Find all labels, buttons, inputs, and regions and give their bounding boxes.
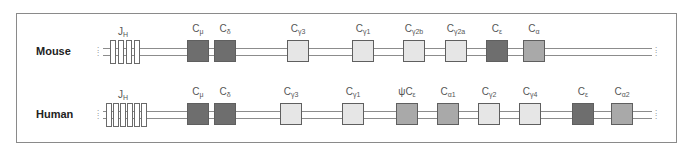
jh-segment — [127, 103, 133, 127]
jh-segment — [141, 103, 147, 127]
human-locus-row: Human :: :: JH CμCδCγ3Cγ1ψCεCα1Cγ2Cγ4CεC… — [0, 0, 693, 149]
gene-box — [572, 103, 594, 125]
gene-label: Cα2 — [614, 86, 629, 98]
gene-box — [519, 103, 541, 125]
gene-label: Cγ3 — [284, 86, 299, 98]
dna-strand-bottom — [103, 118, 652, 119]
jh-segment — [134, 103, 140, 127]
dna-strand-top — [103, 111, 652, 112]
right-continuation-dots: :: — [655, 109, 657, 119]
gene-box — [478, 103, 500, 125]
gene-box — [342, 103, 364, 125]
jh-label: JH — [118, 89, 128, 101]
gene-box — [611, 103, 633, 125]
gene-box — [280, 103, 302, 125]
gene-label: Cα1 — [440, 86, 455, 98]
jh-segment — [106, 103, 112, 127]
gene-box — [214, 103, 236, 125]
gene-box — [187, 103, 209, 125]
gene-label: Cδ — [219, 86, 230, 98]
species-label-human: Human — [36, 108, 73, 120]
jh-segment — [120, 103, 126, 127]
jh-segment — [113, 103, 119, 127]
left-continuation-dots: :: — [97, 109, 99, 119]
gene-label: Cε — [578, 86, 588, 98]
gene-label: Cγ1 — [346, 86, 361, 98]
gene-box — [396, 103, 418, 125]
gene-label: Cγ2 — [482, 86, 497, 98]
gene-label: Cγ4 — [523, 86, 538, 98]
gene-box — [437, 103, 459, 125]
gene-label: ψCε — [398, 86, 415, 98]
gene-label: Cμ — [192, 86, 203, 98]
